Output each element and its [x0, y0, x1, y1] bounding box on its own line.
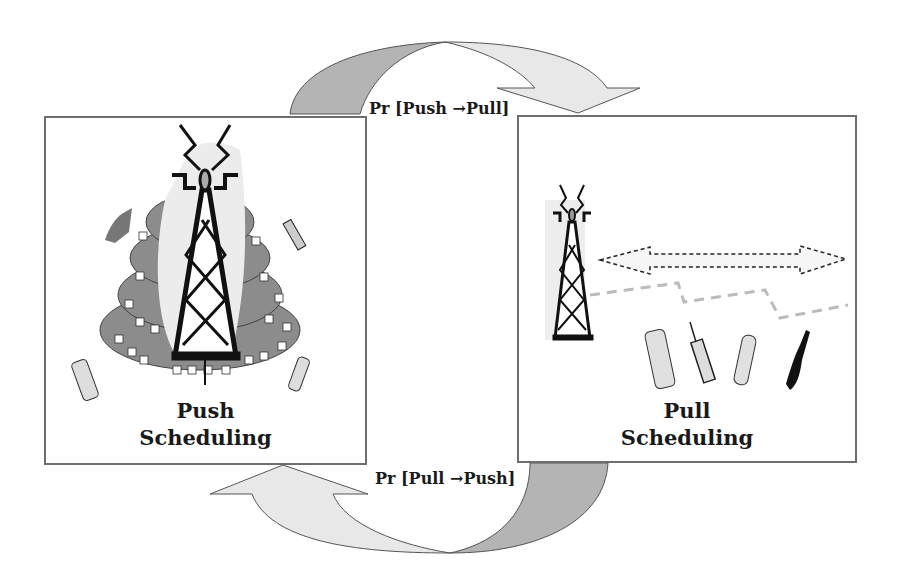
- pull-caption: Pull Scheduling: [517, 397, 857, 451]
- pull-illustration: [0, 0, 898, 586]
- bidirectional-arrow-icon: [600, 246, 846, 274]
- mobile-phone-icon: [786, 330, 810, 390]
- mobile-phone-icon: [733, 334, 757, 386]
- mobile-phone-icon: [644, 329, 676, 390]
- pull-title: Pull: [517, 397, 857, 424]
- dashed-link-icon: [590, 283, 848, 318]
- mobile-phone-group: [644, 322, 810, 390]
- pull-subtitle: Scheduling: [517, 424, 857, 451]
- mobile-phone-icon: [691, 339, 715, 383]
- phone-antenna: [690, 322, 696, 342]
